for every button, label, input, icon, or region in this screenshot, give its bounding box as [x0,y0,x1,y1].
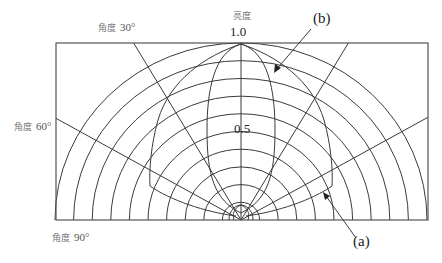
angle-label-90: 角度 90° [52,227,89,245]
radial-label-mid: 0.5 [234,121,250,137]
angle-value: 90° [74,231,89,243]
curve-label-a: (a) [353,233,370,250]
angle-prefix: 角度 [52,233,70,243]
arrow-a [323,192,356,238]
angle-line-60-left [56,118,241,220]
angle-label-30: 角度 30° [98,17,135,35]
radial-label-max: 1.0 [230,24,246,40]
angle-prefix: 角度 [14,122,32,132]
arrow-b [274,29,311,73]
angle-prefix: 角度 [98,23,116,33]
angle-label-60: 角度 60° [14,116,51,134]
curve-label-b: (b) [313,10,331,27]
angle-value: 60° [36,120,51,132]
luminance-title: 亮度 [233,9,251,22]
angle-value: 30° [120,21,135,33]
polar-luminance-diagram [0,0,442,263]
arrowhead-a [323,192,330,200]
